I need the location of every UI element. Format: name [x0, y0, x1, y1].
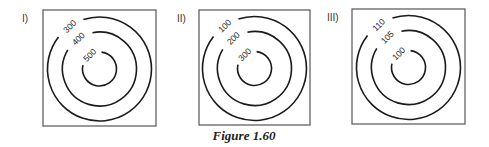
figure-caption: Figure 1.60 — [212, 128, 276, 143]
contour-label: 105 — [379, 28, 396, 45]
contour-label: 300 — [236, 46, 253, 63]
contour-figure: I)300400500II)100200300III)110105100 Fig… — [0, 0, 489, 147]
panel-frame — [43, 10, 156, 126]
panel-3: III)110105100 — [327, 9, 465, 124]
panel-label: I) — [22, 13, 28, 24]
contour-label: 110 — [370, 16, 387, 33]
contour-label: 100 — [216, 17, 233, 34]
contour-label: 500 — [81, 46, 98, 63]
panel-2: II)100200300 — [177, 10, 310, 125]
panel-label: II) — [177, 13, 186, 24]
panel-1: I)300400500 — [22, 10, 156, 126]
contour-label: 400 — [70, 30, 87, 47]
contour-label: 100 — [390, 45, 407, 62]
contour-label: 300 — [61, 18, 78, 35]
panel-frame — [352, 9, 465, 124]
contour-label: 200 — [225, 29, 242, 46]
panel-label: III) — [327, 12, 339, 23]
